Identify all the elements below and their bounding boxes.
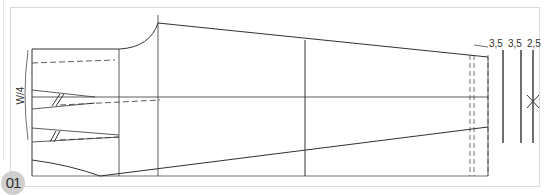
pattern-drawing (0, 0, 546, 195)
figure-number-badge: 01 (1, 171, 25, 195)
measure-label-2: 3,5 (508, 38, 522, 49)
measure-label-1: 3,5 (489, 38, 503, 49)
measure-label-3: 2,5 (527, 38, 541, 49)
waist-quarter-label: W/4 (15, 87, 26, 105)
